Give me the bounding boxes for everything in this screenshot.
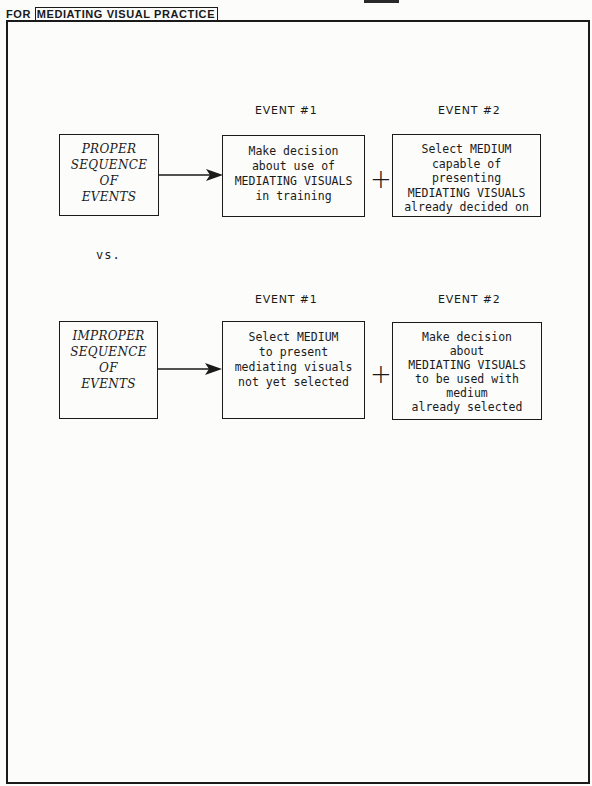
event-text: Make decision about use of MEDIATING VIS… <box>235 144 353 204</box>
row2-event2-header: EVENT #2 <box>438 293 501 306</box>
label-line: OF <box>99 360 118 376</box>
row1-event2-header: EVENT #2 <box>438 104 501 117</box>
row1-event1-box: Make decision about use of MEDIATING VIS… <box>222 135 365 217</box>
row2-event2-box: Make decision about MEDIATING VISUALS to… <box>392 322 542 420</box>
label-line: SEQUENCE <box>70 344 147 360</box>
row2-arrow-icon <box>157 362 223 376</box>
label-line: PROPER <box>82 141 137 157</box>
label-line: OF <box>100 173 119 189</box>
row2-plus-icon: + <box>370 361 392 387</box>
versus-label: vs. <box>96 248 121 262</box>
row2-event1-header: EVENT #1 <box>255 293 318 306</box>
label-line: EVENTS <box>81 376 136 392</box>
event-text: Select MEDIUM to present mediating visua… <box>235 330 353 390</box>
label-line: EVENTS <box>82 189 137 205</box>
header-title: MEDIATING VISUAL PRACTICE <box>35 7 218 20</box>
row1-event2-box: Select MEDIUM capable of presenting MEDI… <box>392 134 541 217</box>
page-tab-mark <box>364 0 399 3</box>
label-line: SEQUENCE <box>71 157 148 173</box>
label-line: IMPROPER <box>72 328 144 344</box>
proper-sequence-box: PROPER SEQUENCE OF EVENTS <box>59 134 159 216</box>
event-text: Make decision about MEDIATING VISUALS to… <box>408 330 526 414</box>
header-prefix: FOR <box>6 8 31 20</box>
row2-event1-box: Select MEDIUM to present mediating visua… <box>222 321 365 419</box>
event-text: Select MEDIUM capable of presenting MEDI… <box>404 142 529 215</box>
row1-event1-header: EVENT #1 <box>255 104 318 117</box>
row1-arrow-icon <box>158 168 224 182</box>
row1-plus-icon: + <box>370 166 392 192</box>
improper-sequence-box: IMPROPER SEQUENCE OF EVENTS <box>59 321 158 419</box>
